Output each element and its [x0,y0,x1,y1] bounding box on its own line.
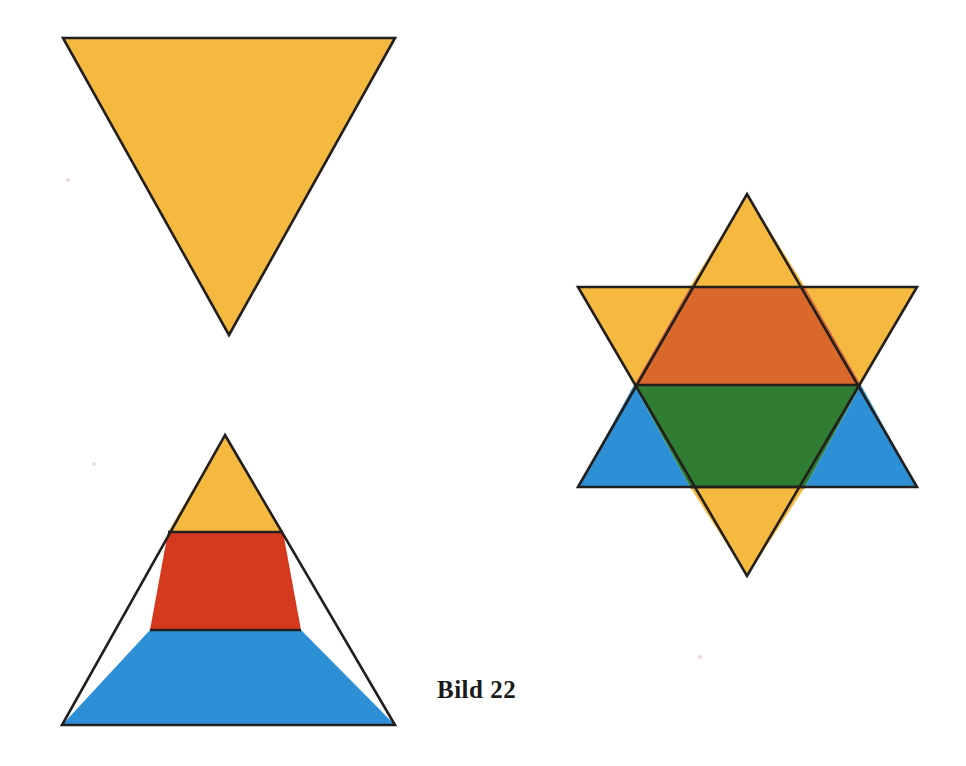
star-point-bottom [690,487,805,576]
banded-triangle-band-blue [62,630,395,725]
star-point-top [690,194,805,287]
figure-caption: Bild 22 [437,676,516,704]
star-of-david-group [578,194,917,576]
figure-page: Bild 22 [0,0,966,766]
banded-triangle-band-amber [168,435,283,532]
scan-speck [66,178,70,182]
scan-speck [92,462,96,466]
inverted-triangle [63,38,395,335]
geometry-diagram [0,0,966,766]
banded-triangle-group [62,435,395,725]
scan-speck [698,655,702,659]
inverted-triangle-group [63,38,395,335]
banded-triangle-band-red [150,532,301,630]
